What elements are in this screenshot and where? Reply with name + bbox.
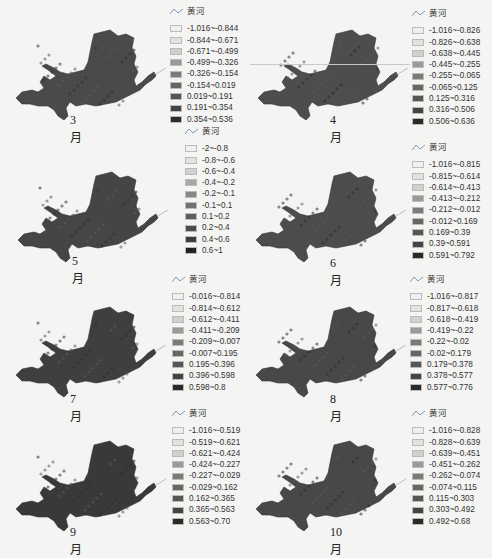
legend-swatch [172, 507, 184, 514]
legend-swatch [170, 82, 182, 89]
legend-header: 黄河 [172, 408, 240, 419]
legend-swatch [410, 361, 422, 368]
legend-item: -0.828~-0.639 [412, 437, 480, 448]
legend-swatch [172, 327, 184, 334]
legend-title: 黄河 [187, 6, 205, 17]
legend-label: -0.6~-0.4 [202, 166, 235, 177]
legend-swatch [170, 59, 182, 66]
legend-swatch [412, 95, 424, 102]
legend-swatch [172, 339, 184, 346]
legend-label: -0.029~0.162 [189, 482, 238, 493]
legend-item: 0.1~0.2 [185, 211, 235, 222]
legend-swatch [172, 439, 184, 446]
legend-item: -0.1~0.1 [185, 200, 235, 211]
legend-swatch [410, 327, 422, 334]
legend-item: 0.169~0.39 [412, 227, 480, 238]
legend-swatch [172, 450, 184, 457]
legend-item: 0.115~0.303 [412, 493, 480, 504]
legend: 黄河-2~-0.8-0.8~-0.6-0.6~-0.4-0.4~-0.2-0.2… [185, 126, 235, 256]
legend-item: 0.303~0.492 [412, 504, 480, 515]
legend: 黄河-1.016~-0.519-0.519~-0.621-0.621~-0.42… [172, 408, 240, 527]
legend-swatch [410, 384, 422, 391]
legend-label: 0.019~0.191 [187, 91, 233, 102]
legend-item: -1.016~-0.519 [172, 425, 240, 436]
legend-item: -0.817~-0.618 [410, 303, 478, 314]
legend-swatch [172, 518, 184, 525]
legend-item: 0.39~0.591 [412, 238, 480, 249]
legend-item: -0.154~0.019 [170, 80, 238, 91]
legend-swatch [412, 439, 424, 446]
legend-label: -0.4~-0.2 [202, 177, 235, 188]
legend-label: -0.065~0.125 [429, 82, 478, 93]
month-caption: 8月 [330, 392, 342, 425]
legend-label: -1.016~-0.844 [187, 23, 238, 34]
legend-label: 0.591~0.792 [429, 250, 475, 261]
legend-item: 0.2~0.4 [185, 222, 235, 233]
legend-item: -0.815~-0.614 [412, 171, 480, 182]
legend-label: 0.4~0.6 [202, 234, 230, 245]
legend: 黄河-1.016~-0.815-0.815~-0.614-0.614~-0.41… [412, 142, 480, 261]
legend-swatch [172, 495, 184, 502]
legend-item: -0.826~-0.638 [412, 37, 480, 48]
legend-item: -0.814~-0.612 [172, 303, 240, 314]
legend-item: 0.125~0.316 [412, 93, 480, 104]
legend-swatch [412, 473, 424, 480]
legend-label: -0.826~-0.638 [429, 37, 480, 48]
legend: 黄河-1.016~-0.826-0.826~-0.638-0.638~-0.44… [412, 8, 480, 127]
legend-title: 黄河 [429, 408, 447, 419]
legend-label: -0.844~-0.671 [187, 35, 238, 46]
legend-label: -0.074~0.115 [429, 482, 477, 493]
legend-swatch [170, 105, 182, 112]
legend-swatch [410, 350, 422, 357]
basin-map [8, 26, 168, 126]
legend-item: 0.591~0.792 [412, 250, 480, 261]
legend-label: -0.419~-0.22 [427, 325, 474, 336]
legend-label: 0.354~0.536 [187, 114, 233, 125]
legend-item: -0.016~-0.814 [172, 291, 240, 302]
legend-swatch [172, 305, 184, 312]
legend-item: -1.016~-0.815 [412, 159, 480, 170]
legend-swatch [412, 252, 424, 259]
legend-swatch [170, 37, 182, 44]
legend-item: -2~-0.8 [185, 143, 235, 154]
river-line-icon [412, 144, 426, 151]
basin-map [248, 303, 408, 403]
month-caption: 7月 [70, 392, 82, 425]
legend-item: -0.02~0.179 [410, 348, 478, 359]
legend-header: 黄河 [412, 408, 480, 419]
legend-swatch [412, 84, 424, 91]
legend-item: 0.365~0.563 [172, 504, 240, 515]
legend-header: 黄河 [170, 6, 238, 17]
legend-item: -0.227~-0.029 [172, 470, 240, 481]
legend-item: -0.618~-0.419 [410, 314, 478, 325]
legend-swatch [412, 73, 424, 80]
legend-swatch [412, 218, 424, 225]
legend-swatch [172, 361, 184, 368]
month-caption: 5月 [72, 254, 84, 287]
month-caption: 9月 [70, 525, 82, 558]
river-line-icon [412, 10, 426, 17]
legend-header: 黄河 [412, 142, 480, 153]
legend-item: -0.262~-0.074 [412, 470, 480, 481]
legend-swatch [412, 518, 424, 525]
legend-label: -0.8~-0.6 [202, 155, 235, 166]
legend-item: 0.396~0.598 [172, 370, 240, 381]
legend-swatch [170, 25, 182, 32]
legend-item: 0.492~0.68 [412, 516, 480, 527]
legend-swatch [185, 225, 197, 232]
legend-swatch [412, 450, 424, 457]
legend-swatch [412, 50, 424, 57]
legend-swatch [185, 157, 197, 164]
legend-label: -0.22~-0.02 [427, 336, 469, 347]
divider [250, 64, 410, 65]
legend-swatch [170, 48, 182, 55]
legend-label: -0.154~0.019 [187, 80, 236, 91]
legend-label: 0.162~0.365 [189, 493, 235, 504]
legend-swatch [412, 61, 424, 68]
legend-swatch [412, 173, 424, 180]
legend-item: 0.019~0.191 [170, 91, 238, 102]
legend-label: -0.212~-0.012 [429, 204, 480, 215]
basin-map [8, 437, 168, 537]
legend-swatch [412, 161, 424, 168]
legend-swatch [185, 179, 197, 186]
